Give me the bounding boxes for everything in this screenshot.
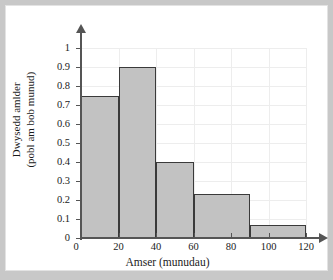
y-tick-mark (76, 48, 81, 49)
y-axis-arrow-icon (76, 24, 86, 33)
y-tick-mark (76, 181, 81, 182)
x-tick-mark (231, 233, 232, 238)
gridline-vertical (269, 48, 270, 238)
y-tick-label: 0.1 (24, 214, 70, 225)
y-axis-title: Dwysedd amlder (pobl am bob munud) (10, 40, 38, 200)
x-tick-mark (156, 233, 157, 238)
figure-frame: 00.10.20.30.40.50.60.70.80.91 0204060801… (5, 5, 328, 271)
y-tick-mark (76, 86, 81, 87)
x-tick-label: 100 (249, 242, 289, 253)
x-tick-label: 40 (136, 242, 176, 253)
x-tick-label: 120 (286, 242, 326, 253)
y-tick-mark (76, 67, 81, 68)
plot-area (81, 48, 306, 238)
x-axis-title: Amser (munudau) (6, 256, 329, 268)
x-tick-mark (194, 233, 195, 238)
x-tick-label: 20 (99, 242, 139, 253)
histogram-bar (119, 67, 157, 238)
x-tick-mark (269, 233, 270, 238)
x-tick-label: 80 (211, 242, 251, 253)
x-tick-mark (306, 233, 307, 238)
histogram-bar (194, 194, 250, 238)
x-tick-mark (119, 233, 120, 238)
gridline-vertical (306, 48, 307, 238)
y-axis-title-line2: (pobl am bob munud) (24, 40, 38, 200)
y-tick-mark (76, 105, 81, 106)
histogram-bar (156, 162, 194, 238)
y-tick-mark (76, 162, 81, 163)
x-tick-label: 60 (174, 242, 214, 253)
y-axis-title-line1: Dwysedd amlder (10, 82, 22, 157)
histogram-bar (250, 225, 306, 238)
y-tick-mark (76, 143, 81, 144)
y-tick-mark (76, 238, 81, 239)
y-axis-line (80, 32, 82, 240)
x-tick-label: 0 (56, 242, 96, 253)
histogram-bar (81, 96, 119, 239)
y-tick-mark (76, 200, 81, 201)
x-axis-line (80, 237, 320, 239)
y-tick-mark (76, 219, 81, 220)
y-tick-mark (76, 124, 81, 125)
